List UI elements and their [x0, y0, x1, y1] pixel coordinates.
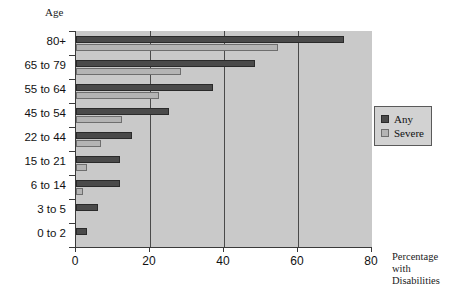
x-axis-tick-label-80: 80	[364, 254, 377, 268]
bar-row	[76, 199, 372, 223]
y-axis-label-55-to-64: 55 to 64	[24, 83, 66, 95]
y-axis-label-15-to-21: 15 to 21	[24, 155, 66, 167]
y-axis-tick	[69, 223, 75, 224]
x-axis-tick-60	[297, 247, 298, 252]
x-axis-tick-0	[75, 247, 76, 252]
legend-swatch-any-icon	[381, 115, 389, 123]
x-caption-line-2: with	[392, 263, 458, 275]
bar-any-80plus	[76, 36, 344, 43]
bar-row	[76, 223, 372, 247]
y-axis-tick	[69, 199, 75, 200]
y-axis-title: Age	[45, 6, 63, 18]
y-axis-tick	[69, 55, 75, 56]
legend-label-any: Any	[394, 113, 413, 125]
x-axis-tick-label-60: 60	[290, 254, 303, 268]
y-axis-label-22-to-44: 22 to 44	[24, 131, 66, 143]
x-axis-tick-40	[223, 247, 224, 252]
y-axis-tick	[69, 175, 75, 176]
bar-severe-15-to-21	[76, 164, 87, 171]
plot-area	[75, 31, 372, 247]
legend-swatch-severe-icon	[381, 129, 389, 137]
bar-any-45-to-54	[76, 108, 169, 115]
x-caption-line-3: Disabilities	[392, 275, 458, 287]
bar-row	[76, 31, 372, 55]
y-axis-label-6-to-14: 6 to 14	[31, 179, 66, 191]
bar-any-6-to-14	[76, 180, 120, 187]
y-axis-label-65-to-79: 65 to 79	[24, 59, 66, 71]
legend-item-severe: Severe	[381, 126, 424, 140]
bar-severe-80plus	[76, 44, 278, 51]
y-axis-label-80plus: 80+	[46, 35, 66, 47]
bar-severe-55-to-64	[76, 92, 159, 99]
y-axis-tick	[69, 151, 75, 152]
x-axis-tick-label-0: 0	[72, 254, 79, 268]
bar-any-3-to-5	[76, 204, 98, 211]
y-axis-label-0-to-2: 0 to 2	[37, 227, 66, 239]
bar-severe-65-to-79	[76, 68, 181, 75]
y-axis-tick	[69, 79, 75, 80]
x-caption-line-1: Percentage	[392, 251, 458, 263]
bar-row	[76, 79, 372, 103]
x-axis-tick-label-40: 40	[216, 254, 229, 268]
bar-severe-45-to-54	[76, 116, 122, 123]
y-axis-label-3-to-5: 3 to 5	[37, 203, 66, 215]
legend-item-any: Any	[381, 112, 424, 126]
bar-any-55-to-64	[76, 84, 213, 91]
bar-severe-22-to-44	[76, 140, 101, 147]
plot-inner	[76, 31, 372, 247]
chart-page: Age 80+65 to 7955 to 6445 to 5422 to 441…	[0, 0, 460, 301]
bar-any-22-to-44	[76, 132, 132, 139]
bar-any-0-to-2	[76, 228, 87, 235]
x-axis-caption: Percentage with Disabilities	[392, 251, 458, 287]
y-axis-tick	[69, 103, 75, 104]
bar-row	[76, 127, 372, 151]
y-axis-label-45-to-54: 45 to 54	[24, 107, 66, 119]
y-axis-tick	[69, 127, 75, 128]
bar-any-65-to-79	[76, 60, 255, 67]
x-axis-tick-label-20: 20	[142, 254, 155, 268]
x-axis-tick-80	[371, 247, 372, 252]
bar-row	[76, 151, 372, 175]
legend-label-severe: Severe	[394, 127, 424, 139]
bar-severe-6-to-14	[76, 188, 83, 195]
y-axis-tick	[69, 31, 75, 32]
bar-any-15-to-21	[76, 156, 120, 163]
bar-row	[76, 175, 372, 199]
bar-row	[76, 103, 372, 127]
x-axis-tick-20	[149, 247, 150, 252]
chart-legend: AnySevere	[374, 106, 432, 146]
bar-row	[76, 55, 372, 79]
